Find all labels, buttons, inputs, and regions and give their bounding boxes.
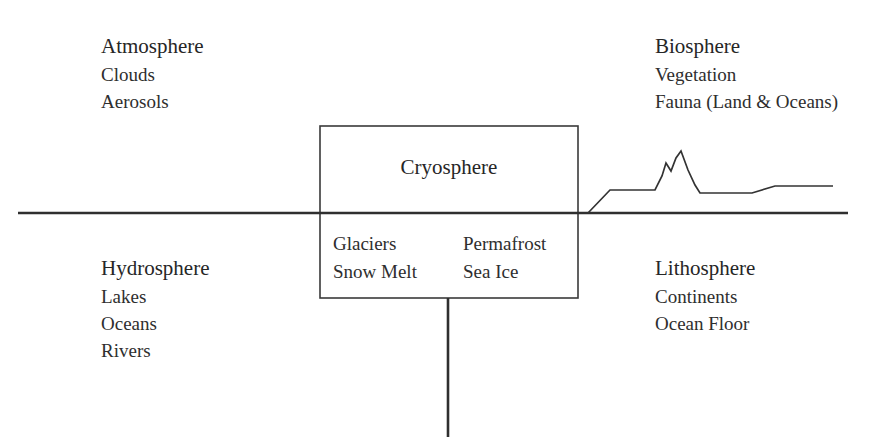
cryosphere-item-snow-melt: Snow Melt [333,258,417,286]
atmosphere-title: Atmosphere [101,32,204,62]
atmosphere-item-aerosols: Aerosols [101,89,204,116]
cryosphere-title: Cryosphere [320,155,578,180]
lithosphere-item-ocean-floor: Ocean Floor [655,311,755,338]
lithosphere-title: Lithosphere [655,254,755,284]
hydrosphere-title: Hydrosphere [101,254,209,284]
hydrosphere-item-oceans: Oceans [101,311,209,338]
lithosphere-item-continents: Continents [655,284,755,311]
cryosphere-right-column: Permafrost Sea Ice [463,230,546,285]
cryosphere-item-glaciers: Glaciers [333,230,417,258]
atmosphere-item-clouds: Clouds [101,62,204,89]
hydrosphere-block: Hydrosphere Lakes Oceans Rivers [101,254,209,365]
biosphere-title: Biosphere [655,32,838,62]
cryosphere-item-sea-ice: Sea Ice [463,258,546,286]
biosphere-item-vegetation: Vegetation [655,62,838,89]
mountain-terrain-profile [588,151,833,213]
biosphere-item-fauna: Fauna (Land & Oceans) [655,89,838,116]
biosphere-block: Biosphere Vegetation Fauna (Land & Ocean… [655,32,838,116]
hydrosphere-item-lakes: Lakes [101,284,209,311]
earth-system-spheres-diagram: Atmosphere Clouds Aerosols Biosphere Veg… [0,0,886,447]
cryosphere-item-permafrost: Permafrost [463,230,546,258]
cryosphere-left-column: Glaciers Snow Melt [333,230,417,285]
hydrosphere-item-rivers: Rivers [101,338,209,365]
lithosphere-block: Lithosphere Continents Ocean Floor [655,254,755,338]
atmosphere-block: Atmosphere Clouds Aerosols [101,32,204,116]
